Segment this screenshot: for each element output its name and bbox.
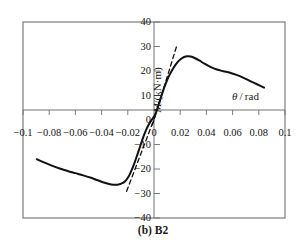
y-tick-label: 20 — [141, 66, 152, 77]
x-tick-label: 0.04 — [197, 128, 215, 139]
y-tick-label: −30 — [135, 188, 151, 199]
y-tick-label: 40 — [141, 17, 152, 28]
x-tick-label: −0.1 — [13, 128, 32, 139]
figure-b2: −0.1−0.08−0.06−0.04−0.0200.020.040.060.0… — [0, 0, 306, 250]
y-tick-label: −20 — [135, 164, 151, 175]
x-tick-label: −0.08 — [37, 128, 61, 139]
x-tick-label: −0.02 — [116, 128, 140, 139]
x-tick-label: 0.08 — [250, 128, 268, 139]
x-tick-label: 0.02 — [171, 128, 189, 139]
x-tick-label: 0.06 — [223, 128, 241, 139]
figure-caption: (b) B2 — [0, 224, 306, 236]
y-tick-label: 30 — [141, 41, 152, 52]
y-tick-label: −40 — [135, 213, 151, 224]
y-tick-label: −10 — [135, 139, 151, 150]
x-tick-label: −0.04 — [89, 128, 113, 139]
y-tick-label: 10 — [141, 90, 152, 101]
x-axis-label: θ / rad — [232, 90, 259, 102]
y-axis-label: M/(kN·m) — [151, 45, 163, 135]
x-tick-label: 0.1 — [278, 128, 291, 139]
x-tick-label: −0.06 — [63, 128, 87, 139]
